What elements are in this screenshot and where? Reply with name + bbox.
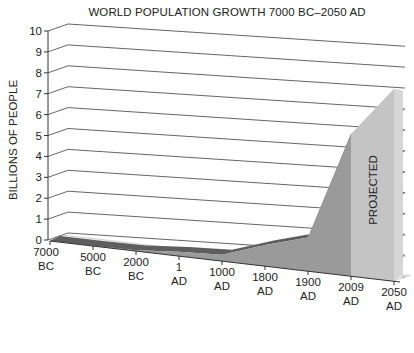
y-tick-label: 5	[36, 130, 42, 142]
gridline	[48, 108, 405, 130]
y-tick-label: 7	[36, 88, 42, 100]
y-tick-label: 2	[36, 192, 42, 204]
x-tick-label: 5000BC	[80, 251, 106, 277]
x-tick-label: 2000BC	[123, 256, 149, 282]
x-tick-label: 2050AD	[381, 286, 407, 312]
y-tick-label: 10	[29, 25, 42, 37]
y-tick-label: 1	[36, 213, 42, 225]
x-tick-label: 1AD	[171, 261, 187, 287]
gridline	[48, 45, 405, 67]
x-tick-label: 1000AD	[209, 266, 235, 292]
y-tick-label: 3	[36, 171, 42, 183]
y-tick-label: 0	[36, 234, 42, 246]
x-tick-label: 1800AD	[252, 271, 278, 297]
gridline	[48, 87, 405, 109]
x-tick-label: 7000BC	[33, 246, 59, 272]
plot-area: 012345678910PROJECTED7000BC5000BC2000BC1…	[0, 0, 414, 353]
y-tick-label: 9	[36, 46, 42, 58]
x-tick-label: 2009AD	[338, 281, 364, 307]
projected-annotation: PROJECTED	[367, 155, 379, 225]
chart: WORLD POPULATION GROWTH 7000 BC–2050 AD …	[0, 0, 414, 353]
gridline	[48, 66, 405, 88]
y-tick-label: 8	[36, 67, 42, 79]
gridline	[48, 24, 405, 46]
x-tick-label: 1900AD	[295, 276, 321, 302]
series-projected-side	[394, 89, 403, 281]
y-tick-label: 4	[36, 150, 43, 162]
y-tick-label: 6	[36, 109, 42, 121]
